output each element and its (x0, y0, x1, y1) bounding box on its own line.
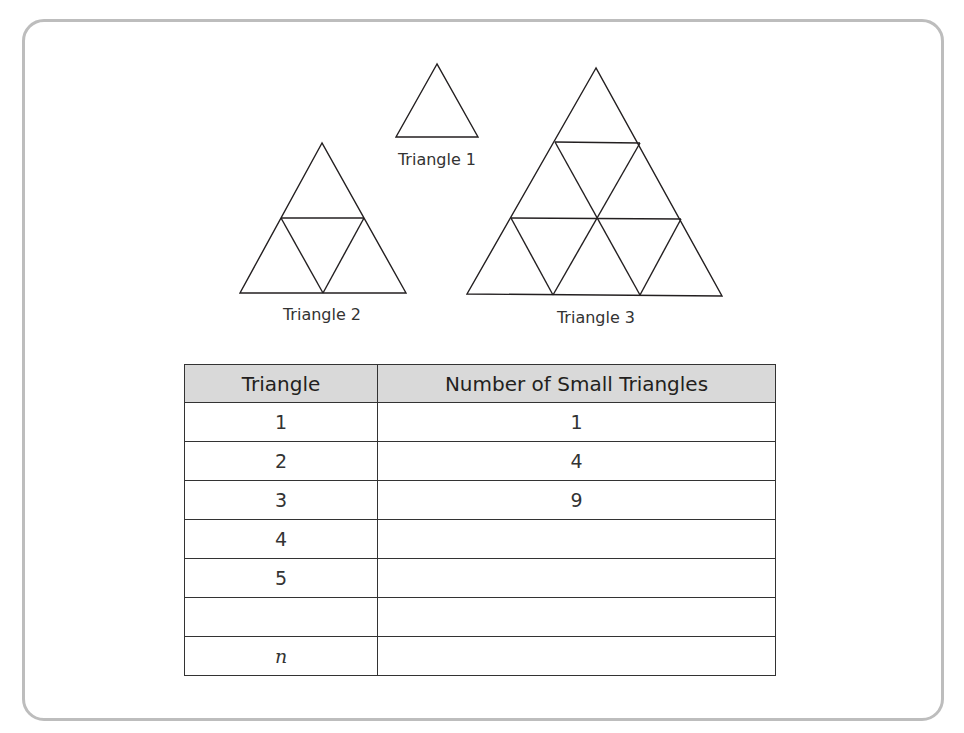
triangle-cell: 1 (185, 403, 378, 442)
table-row: 3 9 (185, 481, 776, 520)
count-cell-blank (378, 637, 776, 676)
triangle-1-shape (396, 64, 478, 137)
triangle-cell: 3 (185, 481, 378, 520)
count-cell-blank (378, 559, 776, 598)
table-row (185, 598, 776, 637)
table-header-row: Triangle Number of Small Triangles (185, 365, 776, 403)
table-row: 2 4 (185, 442, 776, 481)
table-row: 1 1 (185, 403, 776, 442)
count-cell-blank (378, 520, 776, 559)
table-row: 5 (185, 559, 776, 598)
count-cell: 4 (378, 442, 776, 481)
triangle-2-label: Triangle 2 (283, 305, 361, 324)
table-row: 4 (185, 520, 776, 559)
triangle-cell: 4 (185, 520, 378, 559)
triangle-pattern-figure (0, 0, 964, 340)
triangle-cell: 5 (185, 559, 378, 598)
triangle-3-shape (467, 68, 722, 296)
triangle-cell: 2 (185, 442, 378, 481)
triangle-1-label: Triangle 1 (398, 150, 476, 169)
triangle-2-shape (240, 143, 406, 293)
count-cell: 1 (378, 403, 776, 442)
pattern-table: Triangle Number of Small Triangles 1 1 2… (184, 364, 776, 676)
count-cell: 9 (378, 481, 776, 520)
header-number-of-small-triangles: Number of Small Triangles (378, 365, 776, 403)
header-triangle: Triangle (185, 365, 378, 403)
triangle-cell-blank (185, 598, 378, 637)
triangle-3-label: Triangle 3 (557, 308, 635, 327)
count-cell-blank (378, 598, 776, 637)
triangle-cell-n: n (185, 637, 378, 676)
table-row: n (185, 637, 776, 676)
